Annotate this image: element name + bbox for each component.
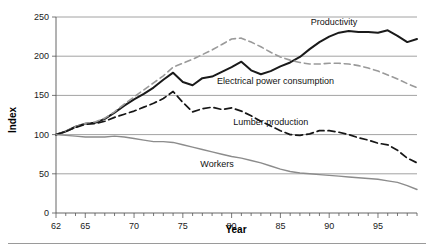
x-tick-label: 75 [178, 221, 188, 231]
footer-divider [8, 243, 426, 244]
y-tick-label: 150 [34, 90, 49, 100]
y-tick-label: 200 [34, 51, 49, 61]
series-label-productivity: Productivity [311, 17, 358, 27]
gridlines-group [56, 17, 417, 174]
series-label-workers: Workers [200, 159, 234, 169]
y-axis-title: Index [7, 107, 18, 134]
x-tick-label: 90 [324, 221, 334, 231]
x-tick-label: 62 [51, 221, 61, 231]
y-tick-label: 50 [39, 169, 49, 179]
y-tick-label: 100 [34, 130, 49, 140]
y-tick-label: 0 [44, 208, 49, 218]
x-tick-label: 70 [129, 221, 139, 231]
line-chart: 050100150200250 6265707580859095 Product… [0, 0, 434, 240]
series-group [56, 30, 417, 189]
series-label-lumber-production: Lumber production [233, 117, 308, 127]
x-axis-title: Year [225, 224, 246, 235]
y-axis-group: 050100150200250 [34, 12, 56, 218]
series-line-lumber-production [56, 91, 417, 162]
x-tick-label: 95 [373, 221, 383, 231]
series-line-workers [56, 135, 417, 190]
x-tick-label: 65 [80, 221, 90, 231]
series-labels-group: ProductivityElectrical power consumption… [200, 17, 358, 169]
series-label-electrical-power-consumption: Electrical power consumption [217, 76, 334, 86]
chart-figure: 050100150200250 6265707580859095 Product… [0, 0, 434, 252]
x-tick-label: 85 [275, 221, 285, 231]
y-tick-label: 250 [34, 12, 49, 22]
